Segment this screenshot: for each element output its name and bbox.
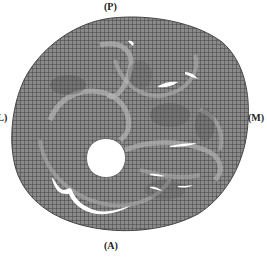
bone-hole [86, 138, 125, 177]
mesh-cross-section [0, 0, 267, 257]
label-anterior: (A) [104, 241, 118, 251]
mesh-figure: (P) (L) (M) (A) [0, 0, 267, 257]
label-posterior: (P) [104, 2, 117, 12]
label-medial: (M) [248, 113, 264, 123]
label-lateral: (L) [0, 113, 7, 123]
